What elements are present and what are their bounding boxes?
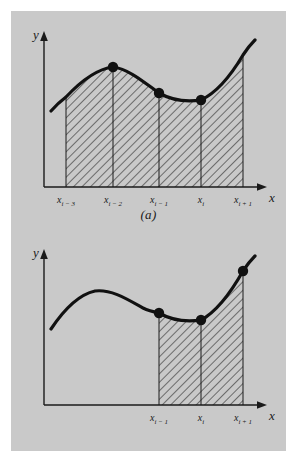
x-axis-label-b: x [268,408,275,423]
shaded-region-a [66,51,243,187]
tick-label-x-i+1: xi + 1 [233,412,252,426]
tick-label-x-i-1: xi − 1 [149,412,168,426]
panel-a-caption: (a) [11,207,286,223]
data-point [196,95,206,105]
y-axis-label-b: y [31,245,39,260]
x-axis-label-a: x [268,190,275,205]
tick-label-x-i: xi [197,194,204,208]
tick-label-x-i-3: xi − 3 [56,194,76,208]
tick-label-x-i-2: xi − 2 [103,194,123,208]
data-point [238,266,248,276]
panel-a-plot: y x xi − 3 xi − 2 xi − 1 xi xi + 1 [11,11,286,233]
tick-label-x-i: xi [197,412,204,426]
y-axis-a [40,31,48,187]
data-point [196,315,206,325]
panel-b-plot: y x xi − 1 xi xi + 1 [11,233,286,451]
tick-label-x-i+1: xi + 1 [233,194,252,208]
y-axis-b [40,249,48,405]
figure-page: y x xi − 3 xi − 2 xi − 1 xi xi + 1 (a) [11,11,286,451]
y-axis-label-a: y [31,27,39,42]
data-point [154,308,164,318]
tick-label-x-i-1: xi − 1 [149,194,168,208]
panel-a: y x xi − 3 xi − 2 xi − 1 xi xi + 1 (a) [11,11,286,233]
panel-b: y x xi − 1 xi xi + 1 (b) [11,233,286,451]
data-point [108,62,118,72]
data-point [154,88,164,98]
